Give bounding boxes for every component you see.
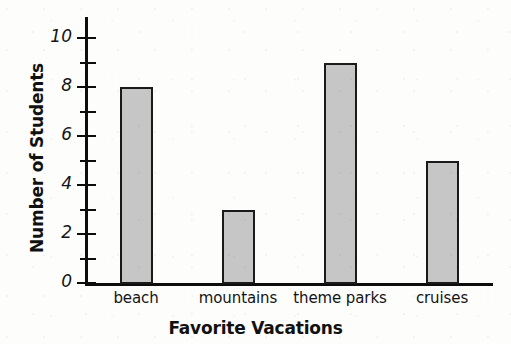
y-tick-minor [80,209,96,211]
x-category-label: mountains [187,289,289,307]
y-tick-label: 10 [36,28,72,45]
y-tick-label: 2 [36,224,72,241]
y-tick-minor [80,160,96,162]
y-tick-major [77,184,96,186]
x-axis-title: Favorite Vacations [0,318,511,338]
x-category-label: beach [85,289,187,307]
bar [324,63,357,285]
y-tick-minor [80,111,96,113]
y-tick-label: 4 [36,175,72,192]
bar [426,161,459,285]
y-tick-major [77,135,96,137]
y-tick-minor [80,62,96,64]
y-tick-major [77,233,96,235]
y-tick-major [77,282,96,284]
y-tick-minor [80,258,96,260]
x-category-label: cruises [391,289,493,307]
x-category-label: theme parks [289,289,391,307]
y-tick-label: 6 [36,126,72,143]
plot-area: 1086420 beachmountainstheme parkscruises [0,0,511,344]
y-tick-major [77,37,96,39]
y-axis-line [85,17,88,286]
y-tick-label: 0 [36,273,72,290]
y-tick-major [77,86,96,88]
bar [120,87,153,284]
bar [222,210,255,285]
bar-chart-figure: Number of Students 1086420 beachmountain… [0,0,511,344]
y-tick-label: 8 [36,77,72,94]
